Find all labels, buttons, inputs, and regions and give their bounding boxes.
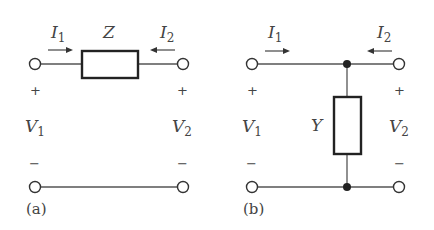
plus-sign-b-left: + [247, 83, 258, 98]
terminal-b-1-bottom [247, 182, 258, 193]
minus-sign-a-right: − [177, 156, 188, 171]
two-port-networks-figure: I1 Z I2 + + V1 V2 − − (a) [0, 0, 434, 230]
plus-sign-b-right: + [394, 83, 405, 98]
admittance-y-label: Y [311, 115, 324, 135]
voltage-v1-label-a: V1 [25, 116, 45, 139]
junction-dot-top [343, 60, 351, 68]
terminal-a-2-top [178, 59, 189, 70]
voltage-v1-label-b: V1 [242, 116, 262, 139]
impedance-z-box [82, 51, 138, 78]
caption-a: (a) [26, 200, 47, 218]
terminal-b-1-top [247, 59, 258, 70]
current-i2-label-a: I2 [159, 22, 174, 45]
terminal-a-1-bottom [30, 182, 41, 193]
current-i1-label-a: I1 [50, 22, 65, 45]
arrow-right-icon [265, 48, 290, 54]
current-i1-label-b: I1 [267, 22, 282, 45]
minus-sign-a-left: − [29, 156, 40, 171]
arrow-right-icon [48, 47, 73, 53]
minus-sign-b-right: − [394, 156, 405, 171]
terminal-a-1-top [30, 59, 41, 70]
plus-sign-a-left: + [30, 83, 41, 98]
voltage-v2-label-b: V2 [389, 116, 409, 139]
terminal-b-2-bottom [394, 182, 405, 193]
panel-b: I1 I2 + + V1 Y V2 − − (b) [242, 22, 409, 218]
current-i2-label-b: I2 [376, 22, 391, 45]
voltage-v2-label-a: V2 [172, 116, 192, 139]
arrow-left-icon [150, 47, 175, 53]
terminal-b-2-top [394, 59, 405, 70]
admittance-y-box [334, 97, 361, 154]
arrow-left-icon [367, 48, 392, 54]
junction-dot-bottom [343, 183, 351, 191]
panel-a: I1 Z I2 + + V1 V2 − − (a) [25, 22, 192, 218]
impedance-z-label: Z [102, 22, 116, 42]
terminal-a-2-bottom [178, 182, 189, 193]
minus-sign-b-left: − [246, 156, 257, 171]
plus-sign-a-right: + [177, 83, 188, 98]
caption-b: (b) [243, 200, 264, 218]
